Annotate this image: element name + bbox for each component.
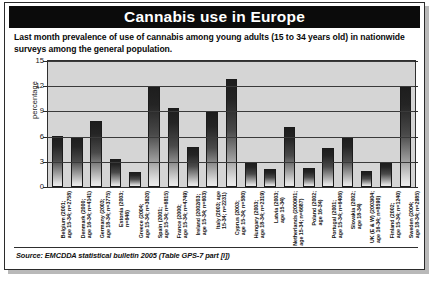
x-axis-tick-label: Poland (2002;age 16-34) <box>311 191 324 225</box>
y-axis-tick-15: 15 <box>28 57 44 65</box>
x-label-line-2: age 15-34; n=6406) <box>337 191 343 238</box>
x-axis-tick-label: Cyprus (2003;age 15-34; n=580) <box>234 191 247 235</box>
y-tickmark-right-0 <box>414 187 418 188</box>
bar <box>245 162 257 187</box>
gridline-9 <box>48 111 415 112</box>
gridline-6 <box>48 137 415 138</box>
bar <box>361 171 373 187</box>
y-axis-tick-9: 9 <box>28 108 44 116</box>
x-axis-tick-label: Italy (2003; age15-34; n=2231) <box>215 191 228 229</box>
plot-area: percentage 03691215 Belgium (2001;age 15… <box>14 60 418 246</box>
gridline-3 <box>48 162 415 163</box>
x-label-line-2: n=646) <box>124 191 130 227</box>
bar <box>129 172 141 187</box>
x-label-line-1: Latvia (2003; <box>273 191 279 223</box>
x-axis-tick-label: Estonia (2003;n=646) <box>118 191 131 227</box>
x-label-line-2: age 15-34; n=603) <box>202 191 208 235</box>
x-label-line-2: age 16-34; n=4141) <box>86 191 92 238</box>
title-bar: Cannabis use in Europe <box>9 6 420 28</box>
x-label-line-2: age 15-34; n=6687) <box>298 191 304 246</box>
x-axis-tick-label: Portugal (2001;age 15-34; n=6406) <box>331 191 344 238</box>
bar <box>380 162 392 187</box>
x-label-line-2: 15-34; n=2231) <box>221 191 227 229</box>
x-label-line-2: age 15-34; n=580) <box>240 191 246 235</box>
bar <box>322 148 334 187</box>
x-label-line-2: age 18-34; n=2985) <box>414 191 420 238</box>
bar <box>284 127 296 187</box>
chart-card: Cannabis use in Europe Last month preval… <box>4 2 425 270</box>
x-axis-tick-label: Netherlands (2000/01;age 15-34; n=6687) <box>292 191 305 246</box>
x-label-line-2: age 16-34; n=8590) <box>376 191 382 243</box>
page-title: Cannabis use in Europe <box>124 9 305 25</box>
x-label-line-1: Finland (2002; <box>389 191 395 238</box>
x-label-line-1: Spain (2001; <box>157 191 163 238</box>
y-axis-tick-0: 0 <box>28 183 44 191</box>
x-label-line-1: Germany (2003; <box>99 191 105 238</box>
x-label-line-2: age 15-34) <box>279 191 285 223</box>
chart-subtitle: Last month prevalence of use of cannabis… <box>14 32 418 56</box>
bar <box>303 168 315 187</box>
plot-panel <box>47 60 416 188</box>
x-label-line-1: Greece (2004; <box>138 191 144 238</box>
x-axis-tick-label: France (2000;age 15-34; n=4749) <box>176 191 189 238</box>
y-tickmark-right-3 <box>414 162 418 163</box>
x-axis-tick-labels: Belgium (2001;age 15-34; n=2758)Denmark … <box>47 189 416 246</box>
gridline-12 <box>48 86 415 87</box>
y-axis-tick-3: 3 <box>28 158 44 166</box>
y-tickmark-right-12 <box>414 86 418 87</box>
y-axis-tick-6: 6 <box>28 133 44 141</box>
bar <box>90 121 102 187</box>
y-tickmark-left-3 <box>43 162 47 163</box>
x-axis-tick-label: Latvia (2003;age 15-34) <box>273 191 286 223</box>
x-label-line-1: Denmark (2000; <box>80 191 86 238</box>
x-axis-tick-label: Hungary (2003;age 18-34; n=2319) <box>253 191 266 238</box>
y-tickmark-left-0 <box>43 187 47 188</box>
x-axis-tick-label: Belgium (2001;age 15-34; n=2758) <box>60 191 73 238</box>
x-label-line-2: age 15-34; n=4749) <box>182 191 188 238</box>
x-axis-tick-label: UK (E & W) (2003/04;age 16-34; n=8590) <box>369 191 382 243</box>
bar <box>110 159 122 187</box>
x-axis-tick-label: Slovakia (2002;age 18-34) <box>350 191 363 229</box>
x-axis-tick-label: Germany (2003;age 18-34; n=3775) <box>99 191 112 238</box>
y-tickmark-left-9 <box>43 111 47 112</box>
y-axis-tick-labels: 03691215 <box>28 60 44 188</box>
gridline-15 <box>48 61 415 62</box>
bar <box>226 79 238 187</box>
bar <box>168 108 180 187</box>
x-axis-tick-label: Ireland (2002/03;age 15-34; n=603) <box>195 191 208 235</box>
source-separator <box>14 247 418 248</box>
source-note: Source: EMCDDA statistical bulletin 2005… <box>16 251 230 260</box>
chart-screenshot: Cannabis use in Europe Last month preval… <box>0 0 433 283</box>
y-tickmark-right-15 <box>414 61 418 62</box>
bar <box>187 147 199 187</box>
x-label-line-2: age 18-34; n=2319) <box>260 191 266 238</box>
x-axis-tick-label: Finland (2002;age 15-34; n=1240) <box>389 191 402 238</box>
x-axis-tick-label: Spain (2001;age 15-34; n=6815) <box>157 191 170 238</box>
x-label-line-2: age 15-34; n=6815) <box>163 191 169 238</box>
x-label-line-2: age 15-34; n=2758) <box>67 191 73 238</box>
x-label-line-1: Italy (2003; age <box>215 191 221 229</box>
bar <box>264 169 276 187</box>
x-label-line-2: age 15-34; n=3620) <box>144 191 150 238</box>
x-label-line-2: age 15-34; n=1240) <box>395 191 401 238</box>
x-label-line-1: Sweden (2004; <box>408 191 414 238</box>
bar-series <box>48 61 415 187</box>
y-tickmark-left-15 <box>43 61 47 62</box>
y-axis-tick-12: 12 <box>28 82 44 90</box>
x-label-line-2: age 16-34) <box>318 191 324 225</box>
x-axis-tick-label: Denmark (2000;age 16-34; n=4141) <box>80 191 93 238</box>
y-tickmark-right-9 <box>414 111 418 112</box>
x-axis-tick-label: Sweden (2004;age 18-34; n=2985) <box>408 191 421 238</box>
y-tickmark-right-6 <box>414 137 418 138</box>
x-label-line-1: Portugal (2001; <box>331 191 337 238</box>
y-tickmark-left-6 <box>43 137 47 138</box>
bar <box>206 112 218 187</box>
y-tickmark-left-12 <box>43 86 47 87</box>
x-label-line-2: age 18-34) <box>356 191 362 229</box>
x-label-line-2: age 18-34; n=3775) <box>105 191 111 238</box>
x-axis-tick-label: Greece (2004;age 15-34; n=3620) <box>138 191 151 238</box>
